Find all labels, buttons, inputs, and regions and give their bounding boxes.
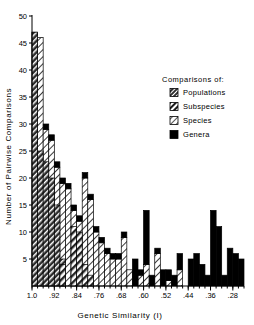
bar bbox=[121, 237, 127, 286]
legend-swatch bbox=[170, 131, 178, 139]
bar bbox=[43, 162, 49, 286]
bar bbox=[110, 254, 116, 259]
bar bbox=[105, 248, 111, 253]
bar bbox=[160, 270, 166, 286]
bar bbox=[65, 183, 71, 188]
legend-title: Comparisons of: bbox=[162, 75, 224, 84]
bar bbox=[144, 210, 150, 264]
bar bbox=[99, 237, 105, 242]
bar bbox=[93, 227, 99, 232]
y-tick-label: 35 bbox=[19, 93, 27, 102]
bar bbox=[54, 162, 60, 167]
y-tick-label: 25 bbox=[19, 147, 27, 156]
bar bbox=[43, 124, 49, 129]
y-tick-label: 10 bbox=[19, 228, 27, 237]
bar bbox=[222, 275, 228, 286]
bar bbox=[138, 270, 144, 275]
bar bbox=[116, 254, 122, 259]
bar bbox=[199, 264, 205, 286]
bar bbox=[88, 275, 94, 286]
bars-group bbox=[32, 32, 244, 286]
bar bbox=[132, 259, 138, 286]
x-tick-label: .52 bbox=[161, 291, 171, 300]
x-tick-label: .28 bbox=[228, 291, 238, 300]
bar bbox=[60, 264, 66, 286]
bar bbox=[110, 259, 116, 286]
x-tick-label: .60 bbox=[138, 291, 148, 300]
bar bbox=[171, 275, 177, 286]
y-tick-label: 5 bbox=[23, 255, 27, 264]
bar bbox=[211, 210, 217, 286]
bar bbox=[233, 254, 239, 286]
x-tick-label: .68 bbox=[116, 291, 126, 300]
bar bbox=[177, 254, 183, 270]
bar bbox=[127, 270, 133, 286]
bar bbox=[38, 151, 44, 286]
bar bbox=[216, 227, 222, 286]
x-axis-title: Genetic Similarity (I) bbox=[77, 311, 162, 320]
bar bbox=[65, 189, 71, 286]
legend-swatch bbox=[170, 89, 178, 97]
legend-swatch bbox=[170, 117, 178, 125]
y-tick-label: 30 bbox=[19, 120, 27, 129]
bar bbox=[155, 248, 161, 253]
y-tick-label: 50 bbox=[19, 12, 27, 21]
bar bbox=[166, 270, 172, 281]
bar bbox=[188, 259, 194, 286]
bar bbox=[105, 254, 111, 286]
bar bbox=[49, 135, 55, 140]
bar bbox=[238, 259, 244, 286]
legend-entries: PopulationsSubspeciesSpeciesGenera bbox=[170, 88, 226, 139]
bar bbox=[77, 232, 83, 286]
legend-label: Populations bbox=[183, 88, 226, 97]
bar bbox=[138, 275, 144, 286]
y-tick-label: 45 bbox=[19, 39, 27, 48]
chart-container: 50454035302520151051.0.92.84.76.68.60.52… bbox=[0, 0, 254, 325]
bar bbox=[60, 178, 66, 183]
bar bbox=[116, 259, 122, 286]
x-tick-label: .44 bbox=[183, 291, 193, 300]
bar bbox=[121, 232, 127, 237]
x-tick-label: .92 bbox=[49, 291, 59, 300]
y-axis-title: Number of Pairwise Comparisons bbox=[4, 88, 13, 225]
legend: Comparisons of: PopulationsSubspeciesSpe… bbox=[162, 75, 226, 139]
bar bbox=[88, 194, 94, 199]
bar bbox=[54, 205, 60, 286]
bar bbox=[32, 32, 38, 286]
bar bbox=[144, 264, 150, 286]
y-tick-label: 20 bbox=[19, 174, 27, 183]
bar bbox=[149, 275, 155, 286]
bar bbox=[77, 216, 83, 221]
bar bbox=[177, 270, 183, 286]
bar bbox=[82, 173, 88, 178]
legend-label: Species bbox=[183, 116, 212, 125]
histogram-svg: 50454035302520151051.0.92.84.76.68.60.52… bbox=[0, 0, 254, 325]
x-tick-label: .84 bbox=[71, 291, 81, 300]
bar bbox=[205, 275, 211, 286]
x-tick-label: .76 bbox=[94, 291, 104, 300]
bar bbox=[71, 205, 77, 210]
bar bbox=[71, 227, 77, 286]
legend-swatch bbox=[170, 103, 178, 111]
bar bbox=[194, 254, 200, 286]
bar bbox=[88, 200, 94, 286]
bar bbox=[155, 254, 161, 286]
legend-label: Genera bbox=[183, 130, 210, 139]
y-tick-label: 40 bbox=[19, 66, 27, 75]
bar bbox=[49, 178, 55, 286]
y-tick-label: 15 bbox=[19, 201, 27, 210]
bar bbox=[166, 281, 172, 286]
bar bbox=[93, 232, 99, 286]
legend-label: Subspecies bbox=[183, 102, 225, 111]
bar bbox=[227, 248, 233, 286]
bar bbox=[82, 264, 88, 286]
x-tick-label: 1.0 bbox=[27, 291, 37, 300]
bar bbox=[99, 243, 105, 286]
x-tick-label: .36 bbox=[205, 291, 215, 300]
